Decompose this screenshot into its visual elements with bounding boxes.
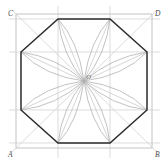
label-point-c: C (8, 9, 14, 18)
ray-o-to-v3 (84, 52, 147, 81)
ray-o-to-v2 (84, 19, 110, 81)
ray-o-to-v5 (84, 81, 110, 143)
ray-o-to-v6 (58, 81, 84, 143)
ray-o-to-v1 (58, 19, 84, 81)
label-point-o: O (86, 73, 91, 81)
ray-o-to-v8 (21, 52, 84, 81)
figure-canvas: A B C D O (0, 0, 168, 163)
label-point-a: A (7, 150, 13, 159)
ray-o-to-v4 (84, 81, 147, 110)
label-point-b: B (155, 150, 160, 159)
geometry-figure: A B C D O (0, 0, 168, 163)
label-point-d: D (154, 9, 161, 18)
ray-o-to-v7 (21, 81, 84, 110)
